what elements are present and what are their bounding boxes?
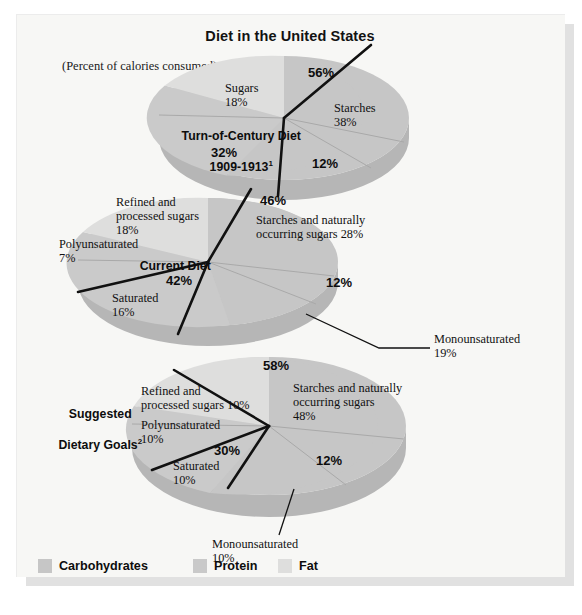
chart-stage: Diet in the United States (Percent of ca… xyxy=(16,14,564,576)
pie3-total-fat: 30% xyxy=(214,444,240,459)
legend: Carbohydrates Protein Fat xyxy=(38,556,558,578)
legend-item-fat: Fat xyxy=(278,556,318,576)
pie1-total-carbohydrates: 56% xyxy=(308,66,334,81)
row-label-suggested-dietary-goals: Suggested Dietary Goals2 xyxy=(20,392,160,468)
pie2-total-fat: 42% xyxy=(166,274,192,289)
legend-label-carbohydrates: Carbohydrates xyxy=(59,559,148,573)
pie2-label-saturated: Saturated 16% xyxy=(112,292,158,320)
legend-swatch-fat-icon xyxy=(278,559,292,573)
pie1-total-protein: 12% xyxy=(312,157,338,172)
pie3-total-protein: 12% xyxy=(316,454,342,469)
row-label-line1: Current Diet xyxy=(140,259,211,273)
legend-swatch-carbohydrates-icon xyxy=(38,559,52,573)
figure-diet-in-the-united-states: Diet in the United States (Percent of ca… xyxy=(0,0,582,615)
row-label-line1: Suggested xyxy=(69,407,132,421)
pie2-total-protein: 12% xyxy=(326,276,352,291)
row-label-line2: 1909-1913 xyxy=(210,160,269,174)
pie2-total-carbohydrates: 46% xyxy=(260,194,286,209)
legend-label-fat: Fat xyxy=(299,559,318,573)
row-label-line2: Dietary Goals xyxy=(58,438,137,452)
pie1-label-sugars: Sugars 18% xyxy=(225,82,258,110)
pie3-label-saturated: Saturated 10% xyxy=(173,460,219,488)
row-label-footnote: 1 xyxy=(268,159,272,168)
pie2-label-polyunsaturated: Polyunsaturated 7% xyxy=(59,238,138,266)
legend-item-carbohydrates: Carbohydrates xyxy=(38,556,148,576)
pie2-label-refined-and-processed-sugars: Refined and processed sugars 18% xyxy=(116,196,199,237)
pies-svg xyxy=(16,14,564,576)
pie1-total-fat: 32% xyxy=(211,146,237,161)
pie1-label-starches: Starches 38% xyxy=(334,102,376,130)
row-label-line1: Turn-of-Century Diet xyxy=(182,129,301,143)
leader-monounsaturated-current xyxy=(306,314,430,348)
legend-label-protein: Protein xyxy=(214,559,257,573)
pie2-label-starches-and-naturally-occurring-sugars: Starches and naturally occurring sugars … xyxy=(256,214,365,242)
pie3-label-starches-and-naturally-occurring-sugars: Starches and naturally occurring sugars … xyxy=(293,382,402,423)
pie3-total-carbohydrates: 58% xyxy=(263,359,289,374)
legend-item-protein: Protein xyxy=(193,556,257,576)
pie2-label-monounsaturated: Monounsaturated 19% xyxy=(434,333,520,361)
pie3-label-refined-and-processed-sugars: Refined and processed sugars 10% xyxy=(141,385,250,413)
legend-swatch-protein-icon xyxy=(193,559,207,573)
pie3-label-polyunsaturated: Polyunsaturated 10% xyxy=(141,419,220,447)
